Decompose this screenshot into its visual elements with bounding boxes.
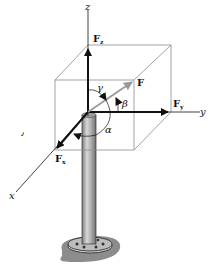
stray-mark: ٫: [21, 127, 24, 137]
fz-label: Fz: [93, 33, 104, 45]
force-label: F: [137, 77, 144, 88]
x-axis-label: x: [9, 190, 15, 201]
gamma-label: γ: [97, 82, 103, 93]
fy-label: Fy: [173, 98, 184, 111]
beta-arc: [116, 98, 118, 112]
bounding-box: [55, 45, 171, 150]
z-axis-label: z: [84, 1, 91, 12]
force-diagram: z y x Fz Fy Fx F γ β α ٫: [0, 0, 215, 272]
alpha-label: α: [105, 124, 112, 135]
post: [82, 115, 96, 244]
beta-label: β: [121, 98, 128, 109]
y-axis-label: y: [199, 106, 206, 117]
fx-label: Fx: [55, 153, 66, 165]
bolt-icon: [76, 243, 79, 246]
